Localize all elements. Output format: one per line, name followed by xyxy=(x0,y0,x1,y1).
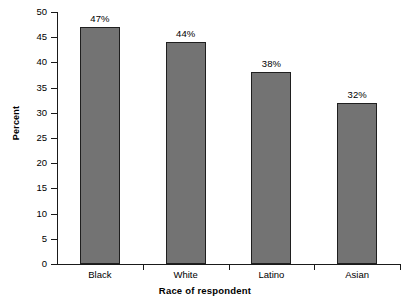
y-tick-mark xyxy=(51,163,57,164)
y-tick-label: 40 xyxy=(19,57,47,67)
y-tick-label: 35 xyxy=(19,83,47,93)
y-tick-mark xyxy=(51,37,57,38)
x-tick-mark xyxy=(229,264,230,270)
bar-value-label: 44% xyxy=(161,29,211,39)
x-axis-label: Race of respondent xyxy=(0,285,410,296)
category-label: Latino xyxy=(231,270,311,280)
bar xyxy=(166,42,206,264)
y-tick-mark xyxy=(51,12,57,13)
y-tick-mark xyxy=(51,113,57,114)
y-tick-mark xyxy=(51,138,57,139)
y-tick-label: 0 xyxy=(19,259,47,269)
y-tick-mark xyxy=(51,264,57,265)
bar-value-label: 32% xyxy=(332,90,382,100)
x-tick-mark xyxy=(314,264,315,270)
y-tick-mark xyxy=(51,188,57,189)
x-tick-mark xyxy=(400,264,401,270)
y-tick-label: 45 xyxy=(19,32,47,42)
y-tick-label: 10 xyxy=(19,209,47,219)
bar xyxy=(337,103,377,264)
y-tick-label: 20 xyxy=(19,158,47,168)
category-label: Black xyxy=(60,270,140,280)
y-tick-mark xyxy=(51,214,57,215)
y-tick-mark xyxy=(51,239,57,240)
bar xyxy=(251,72,291,264)
bar-value-label: 47% xyxy=(75,14,125,24)
y-tick-mark xyxy=(51,88,57,89)
y-axis-label: Percent xyxy=(11,83,21,163)
y-tick-label: 15 xyxy=(19,183,47,193)
y-axis-line xyxy=(57,12,58,265)
category-label: Asian xyxy=(317,270,397,280)
y-tick-label: 5 xyxy=(19,234,47,244)
x-tick-mark xyxy=(143,264,144,270)
category-label: White xyxy=(146,270,226,280)
y-tick-mark xyxy=(51,62,57,63)
y-tick-label: 30 xyxy=(19,108,47,118)
bar-value-label: 38% xyxy=(246,59,296,69)
y-tick-label: 25 xyxy=(19,133,47,143)
bar xyxy=(80,27,120,264)
y-tick-label: 50 xyxy=(19,7,47,17)
bar-chart: Percent 05101520253035404550 47%44%38%32… xyxy=(0,0,410,301)
